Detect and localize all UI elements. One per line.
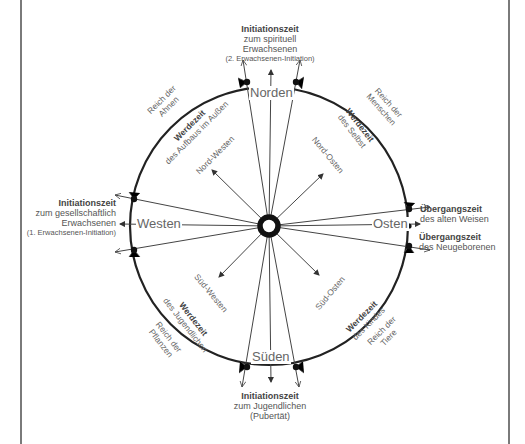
direction-west: Westen xyxy=(136,217,182,231)
initiation-north-line2: Erwachsenen xyxy=(212,44,328,54)
direction-east: Osten xyxy=(372,217,409,231)
initiation-west-label: Initiationszeit zum gesellschaftlich Erw… xyxy=(20,198,116,237)
initiation-north-title: Initiationszeit xyxy=(212,24,328,34)
direction-north: Norden xyxy=(249,86,294,100)
center-ring xyxy=(260,217,278,235)
initiation-west-line2: Erwachsenen xyxy=(20,218,116,228)
initiation-west-title: Initiationszeit xyxy=(20,198,116,208)
initiation-south-line2: (Pubertät) xyxy=(212,411,328,421)
transition-east-lower-label: Übergangszeit des Neugeborenen xyxy=(419,232,496,252)
initiation-north-label: Initiationszeit zum spirituell Erwachsen… xyxy=(212,24,328,63)
transition-upper-title: Übergangszeit xyxy=(420,204,489,214)
transition-lower-title: Übergangszeit xyxy=(419,232,496,242)
transition-east-upper-label: Übergangszeit des alten Weisen xyxy=(420,204,489,224)
initiation-south-label: Initiationszeit zum Jugendlichen (Pubert… xyxy=(212,391,328,421)
initiation-south-line1: zum Jugendlichen xyxy=(212,401,328,411)
initiation-north-line1: zum spirituell xyxy=(212,34,328,44)
initiation-north-note: (2. Erwachsenen-Initiation) xyxy=(212,54,328,63)
initiation-west-line1: zum gesellschaftlich xyxy=(20,208,116,218)
direction-south: Süden xyxy=(251,350,291,364)
transition-lower-line1: des Neugeborenen xyxy=(419,242,496,252)
transition-upper-line1: des alten Weisen xyxy=(420,214,489,224)
initiation-south-title: Initiationszeit xyxy=(212,391,328,401)
initiation-west-note: (1. Erwachsenen-Initiation) xyxy=(20,228,116,237)
